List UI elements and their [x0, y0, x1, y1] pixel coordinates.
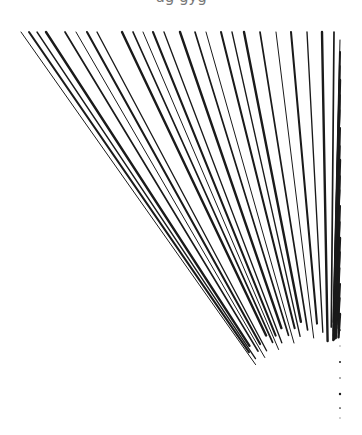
speed-line [133, 32, 273, 342]
speed-line [307, 32, 323, 332]
speed-line [206, 32, 294, 343]
speed-lines-illustration [0, 0, 362, 435]
speed-line [322, 32, 328, 341]
speed-line [291, 32, 317, 324]
speed-line [164, 32, 282, 343]
speed-line [29, 32, 249, 352]
speed-line [65, 32, 258, 351]
speed-line [339, 314, 341, 337]
